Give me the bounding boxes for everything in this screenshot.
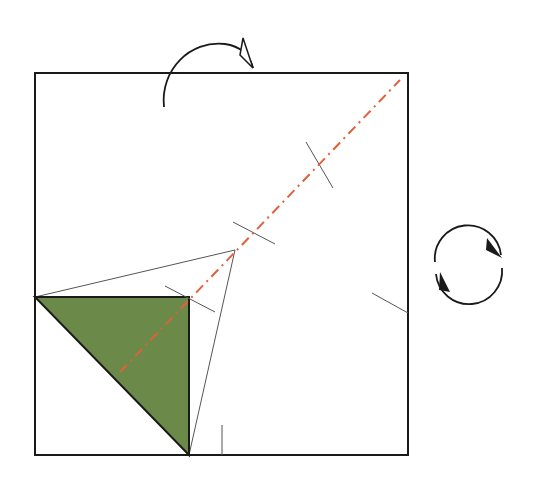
origami-diagram xyxy=(0,0,534,485)
rotate-arrows-icon xyxy=(435,225,502,304)
